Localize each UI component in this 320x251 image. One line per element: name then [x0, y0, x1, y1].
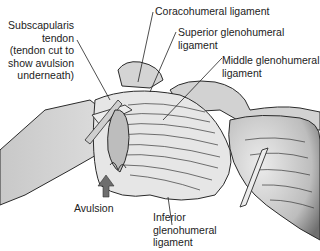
label-text: Inferior — [153, 211, 217, 224]
label-coracohumeral-ligament: Coracohumeral ligament — [155, 5, 269, 18]
label-text: underneath) — [0, 69, 74, 82]
label-text: show avulsion — [0, 57, 74, 70]
coracoid-shape — [118, 62, 163, 88]
label-text: tendon — [0, 32, 74, 45]
label-text: glenohumeral — [153, 224, 217, 237]
label-subscapularis-tendon: Subscapularis tendon (tendon cut to show… — [0, 19, 74, 82]
label-text: (tendon cut to — [0, 44, 74, 57]
label-inferior-glenohumeral-ligament: Inferior glenohumeral ligament — [153, 211, 217, 249]
label-text: ligament — [178, 39, 284, 52]
label-middle-glenohumeral-ligament: Middle glenohumeral ligament — [222, 54, 319, 79]
label-text: ligament — [153, 236, 217, 249]
label-text: ligament — [222, 67, 319, 80]
scapula-shape — [229, 115, 320, 240]
label-text: Superior glenohumeral — [178, 26, 284, 39]
label-superior-glenohumeral-ligament: Superior glenohumeral ligament — [178, 26, 284, 51]
label-avulsion: Avulsion — [74, 202, 114, 215]
label-text: Middle glenohumeral — [222, 54, 319, 67]
shoulder-ligament-diagram: Subscapularis tendon (tendon cut to show… — [0, 0, 320, 251]
label-text: Subscapularis — [0, 19, 74, 32]
